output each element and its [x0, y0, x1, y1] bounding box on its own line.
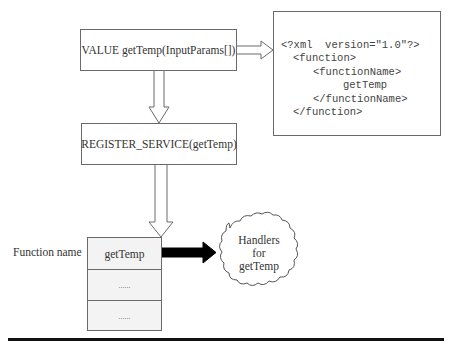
value-function-label: VALUE getTemp(InputParams[]) — [82, 44, 236, 56]
register-service-label: REGISTER_SERVICE(getTemp) — [81, 138, 236, 150]
bottom-rule — [8, 338, 444, 341]
table-row: getTemp — [88, 238, 161, 269]
table-row: ...... — [88, 300, 161, 331]
diagram-canvas: VALUE getTemp(InputParams[]) <?xml versi… — [0, 0, 452, 347]
register-service-box: REGISTER_SERVICE(getTemp) — [81, 123, 237, 165]
handler-line: Handlers — [222, 234, 296, 247]
table-cell-placeholder: ...... — [119, 281, 131, 290]
table-cell-placeholder: ...... — [119, 312, 131, 321]
arrow-value-to-xml — [236, 41, 273, 59]
value-function-box: VALUE getTemp(InputParams[]) — [80, 29, 237, 71]
table-cell-gettemp: getTemp — [104, 248, 144, 260]
arrow-table-to-handlers — [162, 242, 216, 263]
arrow-value-to-register — [149, 70, 169, 123]
xml-line-function-open: <function> — [293, 52, 356, 64]
xml-line-function-close: </function> — [293, 106, 362, 118]
xml-line-functionname-open: <functionName> — [313, 66, 401, 78]
xml-line-functionname-close: </functionName> — [313, 93, 408, 105]
xml-line-functionname-value: getTemp — [343, 79, 387, 91]
function-name-table: getTemp ...... ...... — [87, 237, 162, 331]
xml-descriptor-box: <?xml version="1.0"?> <function> <functi… — [273, 11, 441, 136]
table-row: ...... — [88, 269, 161, 300]
function-name-label: Function name — [13, 246, 82, 258]
handler-cloud-text: Handlers for getTemp — [222, 234, 296, 273]
handler-line: getTemp — [222, 260, 296, 273]
arrow-register-to-table — [149, 164, 173, 237]
xml-line-declaration: <?xml version="1.0"?> — [281, 39, 420, 51]
handler-line: for — [222, 247, 296, 260]
